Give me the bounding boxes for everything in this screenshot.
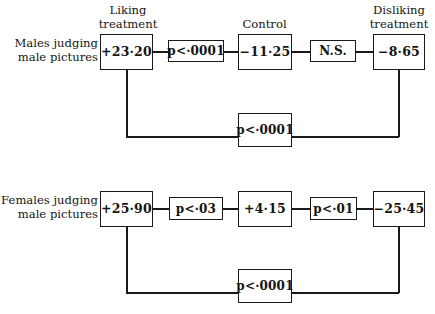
connector-p1-to-node2	[223, 51, 239, 53]
side-label-males-judging-line1: Males judging	[2, 37, 98, 51]
side-label-males-judging-line2: male pictures	[2, 51, 98, 65]
node-box-males-liking-value: +23·20	[101, 46, 152, 59]
connector-p5-to-node6	[356, 208, 374, 210]
connector-node2-to-ns	[291, 51, 311, 53]
connector-node4-to-p4	[152, 208, 170, 210]
connector-node1-drop	[126, 69, 128, 137]
connector-node5-to-p5	[291, 208, 311, 210]
connector-bottom-left-run-2	[126, 292, 239, 294]
node-box-males-control[interactable]: −11·25	[238, 34, 292, 70]
link-box-males-control-disliking-label: N.S.	[319, 45, 347, 57]
side-label-males-judging: Males judging male pictures	[2, 37, 98, 64]
link-box-females-liking-disliking-label: p<·0001	[236, 280, 293, 292]
node-box-females-liking[interactable]: +25·90	[100, 191, 153, 227]
top-label-disliking-treatment-line1: Disliking	[354, 4, 435, 18]
node-box-females-liking-value: +25·90	[101, 203, 152, 216]
node-box-females-disliking-value: −25·45	[374, 203, 425, 216]
link-box-males-liking-control-label: p<·0001	[167, 45, 224, 57]
connector-node6-drop	[398, 226, 400, 293]
connector-bottom-right-run-1	[291, 136, 399, 138]
node-box-females-disliking[interactable]: −25·45	[373, 191, 425, 227]
node-box-females-control-value: +4·15	[244, 203, 286, 216]
top-label-liking-treatment: Liking treatment	[83, 4, 173, 31]
node-box-males-liking[interactable]: +23·20	[100, 34, 153, 70]
node-box-males-disliking[interactable]: −8·65	[373, 34, 425, 70]
top-label-control-line1: Control	[222, 18, 307, 32]
side-label-females-judging-line1: Females judging	[0, 194, 98, 208]
connector-bottom-right-run-2	[291, 292, 399, 294]
link-box-males-liking-disliking-label: p<·0001	[236, 124, 293, 136]
side-label-females-judging: Females judging male pictures	[0, 194, 98, 221]
top-label-liking-treatment-line2: treatment	[83, 18, 173, 32]
link-box-females-first[interactable]: p<·03	[169, 197, 223, 220]
link-box-males-liking-disliking[interactable]: p<·0001	[238, 113, 292, 147]
node-box-males-control-value: −11·25	[240, 46, 291, 59]
link-box-males-control-disliking[interactable]: N.S.	[310, 40, 356, 62]
top-label-control: Control	[222, 18, 307, 32]
connector-node3-drop	[398, 69, 400, 137]
diagram-root: Liking treatment Control Disliking treat…	[0, 0, 435, 314]
connector-p4-to-node5	[222, 208, 239, 210]
link-box-females-second[interactable]: p<·01	[310, 197, 357, 220]
node-box-females-control[interactable]: +4·15	[238, 191, 292, 227]
link-box-females-liking-disliking[interactable]: p<·0001	[238, 269, 292, 303]
link-box-females-first-label: p<·03	[176, 203, 216, 215]
link-box-females-second-label: p<·01	[313, 203, 353, 215]
node-box-males-disliking-value: −8·65	[378, 46, 420, 59]
top-label-liking-treatment-line1: Liking	[83, 4, 173, 18]
link-box-males-liking-control[interactable]: p<·0001	[168, 40, 224, 62]
top-label-disliking-treatment-line2: treatment	[354, 18, 435, 32]
connector-node4-drop	[126, 226, 128, 293]
connector-bottom-left-run-1	[126, 136, 239, 138]
connector-ns-to-node3	[355, 51, 374, 53]
side-label-females-judging-line2: male pictures	[0, 208, 98, 222]
top-label-disliking-treatment: Disliking treatment	[354, 4, 435, 31]
